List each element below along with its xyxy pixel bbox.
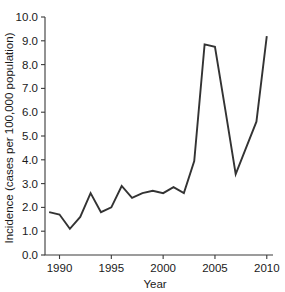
y-axis-tick-label: 6.0 xyxy=(22,106,38,118)
incidence-line-chart-figure: 0.01.02.03.04.05.06.07.08.09.010.0 19901… xyxy=(0,0,285,292)
chart-canvas: 0.01.02.03.04.05.06.07.08.09.010.0 19901… xyxy=(0,0,285,292)
y-axis-tick-group: 0.01.02.03.04.05.06.07.08.09.010.0 xyxy=(16,11,45,261)
x-axis-tick-label: 2010 xyxy=(254,262,280,274)
incidence-line-series xyxy=(49,36,267,229)
y-axis-tick-label: 10.0 xyxy=(16,11,38,23)
y-axis-title: Incidence (cases per 100,000 population) xyxy=(3,32,15,243)
x-axis-tick-label: 1995 xyxy=(99,262,125,274)
y-axis-tick-label: 5.0 xyxy=(22,130,38,142)
x-axis-title: Year xyxy=(143,278,166,290)
x-axis-tick-label: 2000 xyxy=(150,262,176,274)
data-series-group xyxy=(49,36,267,229)
y-axis-tick-label: 9.0 xyxy=(22,35,38,47)
x-axis-tick-label: 2005 xyxy=(202,262,228,274)
y-axis-tick-label: 0.0 xyxy=(22,249,38,261)
y-axis-tick-label: 1.0 xyxy=(22,225,38,237)
y-axis-tick-label: 7.0 xyxy=(22,82,38,94)
x-axis-tick-label: 1990 xyxy=(47,262,73,274)
y-axis-tick-label: 3.0 xyxy=(22,178,38,190)
y-axis-tick-label: 4.0 xyxy=(22,154,38,166)
x-axis-tick-group: 19901995200020052010 xyxy=(47,255,280,274)
y-axis-tick-label: 2.0 xyxy=(22,201,38,213)
y-axis-tick-label: 8.0 xyxy=(22,59,38,71)
